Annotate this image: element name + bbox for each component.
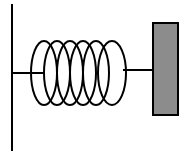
spring-mass-diagram xyxy=(0,0,192,152)
diagram-canvas xyxy=(0,0,192,152)
mass-block xyxy=(153,23,178,115)
spring xyxy=(31,41,126,105)
